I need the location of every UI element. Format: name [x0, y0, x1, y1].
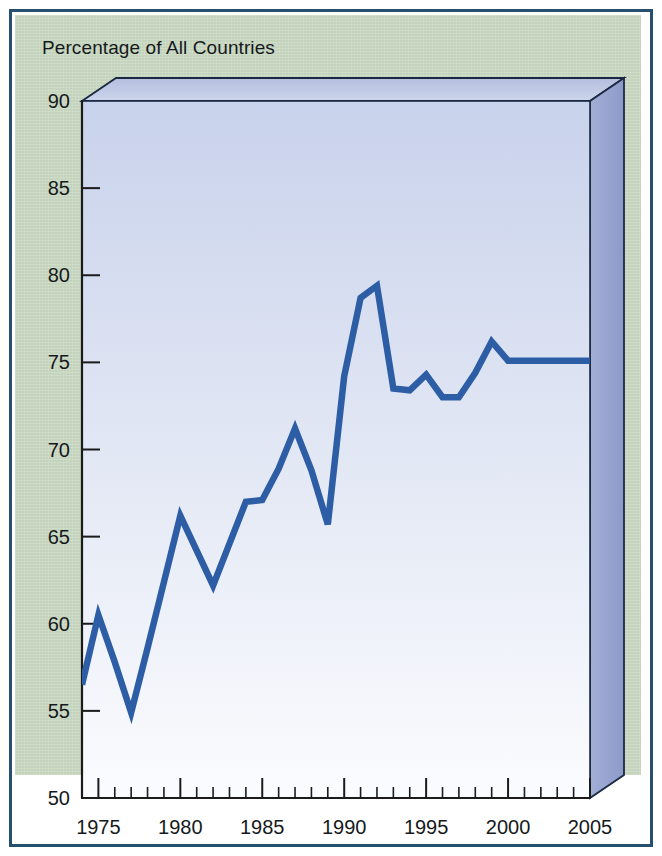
- y-tick-label: 90: [48, 90, 70, 112]
- y-tick-label: 80: [48, 264, 70, 286]
- y-tick-label: 50: [48, 787, 70, 809]
- y-tick-label: 55: [48, 700, 70, 722]
- x-tick-label: 1975: [76, 816, 121, 838]
- chart-plot: 505560657075808590 197519801985199019952…: [12, 12, 662, 856]
- x-tick-label: 2005: [568, 816, 613, 838]
- chart-figure: Percentage of All Countries: [9, 9, 653, 847]
- plot-top-face: [82, 78, 624, 101]
- y-tick-label: 70: [48, 439, 70, 461]
- plot-right-face: [590, 78, 624, 798]
- y-tick-label: 85: [48, 177, 70, 199]
- y-tick-label: 60: [48, 613, 70, 635]
- x-axis-labels: 1975198019851990199520002005: [76, 816, 612, 838]
- x-tick-label: 1995: [404, 816, 449, 838]
- x-tick-label: 2000: [486, 816, 531, 838]
- y-tick-label: 75: [48, 351, 70, 373]
- y-axis-labels: 505560657075808590: [48, 90, 70, 809]
- y-tick-label: 65: [48, 526, 70, 548]
- x-tick-label: 1990: [322, 816, 367, 838]
- x-tick-label: 1980: [158, 816, 203, 838]
- x-tick-label: 1985: [240, 816, 285, 838]
